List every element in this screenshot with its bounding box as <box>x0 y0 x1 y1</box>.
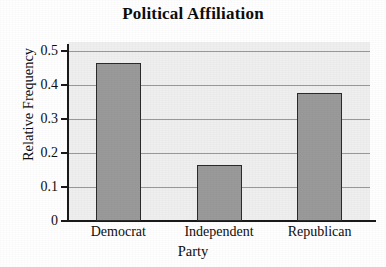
y-tick-label: 0.5 <box>0 44 58 58</box>
bar <box>96 63 141 221</box>
bar-chart-figure: Political Affiliation Relative Frequency… <box>0 0 386 267</box>
y-tick-label: 0.2 <box>0 146 58 160</box>
y-tick-label: 0 <box>0 214 58 228</box>
y-axis-line <box>67 44 69 222</box>
gridline <box>68 51 370 52</box>
chart-title: Political Affiliation <box>0 4 386 24</box>
y-tick-mark <box>61 186 68 188</box>
y-axis-title: Relative Frequency <box>20 15 37 195</box>
bar <box>297 93 342 221</box>
y-tick-mark <box>61 220 68 222</box>
y-tick-label: 0.3 <box>0 112 58 126</box>
y-tick-label: 0.4 <box>0 78 58 92</box>
bar <box>197 165 242 221</box>
y-tick-mark <box>61 84 68 86</box>
x-axis-title: Party <box>0 243 386 260</box>
x-tick-label: Republican <box>260 224 380 240</box>
y-tick-mark <box>61 118 68 120</box>
y-tick-mark <box>61 50 68 52</box>
y-tick-mark <box>61 152 68 154</box>
y-tick-label: 0.1 <box>0 180 58 194</box>
